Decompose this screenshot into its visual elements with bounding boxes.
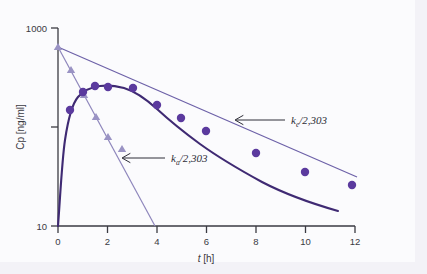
terminal-elimination-line bbox=[58, 47, 357, 177]
data-point-marker bbox=[301, 168, 309, 176]
tick-labels-group: 1000 100 10 0 2 4 6 8 10 12 bbox=[26, 23, 360, 247]
ka-annotation-label: ka/2,303 bbox=[171, 152, 208, 167]
ka-rest: /2,303 bbox=[179, 152, 208, 164]
residual-marker bbox=[118, 145, 126, 152]
data-point-marker bbox=[104, 83, 112, 91]
x-tick-label-8: 8 bbox=[253, 236, 258, 247]
data-point-marker bbox=[129, 84, 137, 92]
ke-annotation: ke/2,303 bbox=[235, 114, 328, 129]
data-point-marker bbox=[66, 106, 74, 114]
x-axis-title: t [h] bbox=[198, 253, 215, 264]
data-point-marker bbox=[79, 88, 87, 96]
residual-marker bbox=[67, 66, 75, 73]
x-tick-label-0: 0 bbox=[55, 236, 60, 247]
data-point-marker bbox=[202, 127, 210, 135]
plot-area: 1000 100 10 0 2 4 6 8 10 12 Cp [ng/ml] t… bbox=[0, 0, 427, 274]
x-tick-label-6: 6 bbox=[204, 236, 209, 247]
x-tick-label-12: 12 bbox=[350, 236, 361, 247]
data-point-marker bbox=[153, 101, 161, 109]
x-tick-label-10: 10 bbox=[300, 236, 311, 247]
ke-annotation-label: ke/2,303 bbox=[291, 114, 328, 129]
ke-rest: /2,303 bbox=[298, 114, 327, 126]
y-axis-title: Cp [ng/ml] bbox=[15, 104, 26, 150]
data-point-marker bbox=[252, 149, 260, 157]
residual-marker bbox=[92, 113, 100, 120]
x-axis-title-unit: [h] bbox=[200, 253, 214, 264]
x-tick-label-4: 4 bbox=[154, 236, 159, 247]
figure-container: 1000 100 10 0 2 4 6 8 10 12 Cp [ng/ml] t… bbox=[0, 0, 427, 274]
data-point-marker bbox=[177, 114, 185, 122]
ka-annotation: ka/2,303 bbox=[122, 152, 208, 167]
x-tick-label-2: 2 bbox=[105, 236, 110, 247]
residual-marker bbox=[54, 43, 62, 50]
y-tick-label-10: 10 bbox=[36, 221, 47, 232]
data-point-marker bbox=[348, 181, 356, 189]
y-tick-label-1000: 1000 bbox=[26, 23, 47, 34]
data-point-marker bbox=[91, 82, 99, 90]
